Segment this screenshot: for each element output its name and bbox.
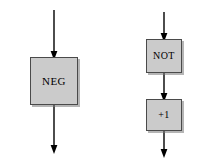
- process-box-not[interactable]: NOT: [146, 39, 182, 73]
- process-box-neg-label: NEG: [42, 76, 66, 87]
- process-box-neg[interactable]: NEG: [30, 57, 78, 105]
- not-to-plus1-arrow: [158, 72, 170, 102]
- process-box-plus-one[interactable]: +1: [146, 99, 182, 131]
- process-box-plus-one-label: +1: [158, 110, 169, 120]
- plus1-output-arrow: [158, 130, 170, 158]
- block-diagram-canvas: NEG NOT +1: [0, 0, 200, 167]
- neg-output-arrow: [48, 104, 60, 154]
- neg-input-arrow: [48, 10, 60, 60]
- not-input-arrow: [158, 12, 170, 42]
- process-box-not-label: NOT: [153, 51, 175, 61]
